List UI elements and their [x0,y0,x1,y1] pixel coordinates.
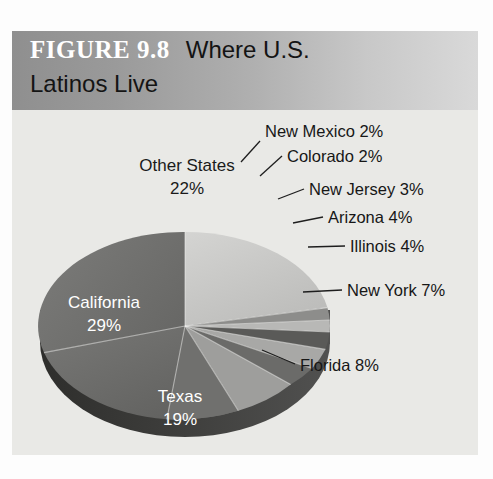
label-texas-name: Texas [158,387,202,406]
label-other-states-percent: 22% [170,179,204,198]
label-illinois: Illinois 4% [350,237,425,255]
leader-line-colorado [260,156,282,176]
leader-line-new-mexico [241,141,260,162]
leader-line-illinois [308,246,345,247]
label-arizona: Arizona 4% [328,208,413,226]
label-new-york: New York 7% [347,281,445,299]
label-colorado: Colorado 2% [287,147,383,165]
label-california-name: California [68,293,140,312]
label-florida: Florida 8% [300,356,379,374]
figure-root: FIGURE 9.8Where U.S. Latinos Live [0,0,493,479]
figure-title-line-1: Where U.S. [186,36,310,63]
figure-number-label: FIGURE 9.8 [30,36,170,63]
figure-header-line-2: Latinos Live [30,70,158,98]
label-other-states-name: Other States [139,156,234,175]
figure-title-line-2: Latinos Live [30,70,158,97]
label-new-mexico: New Mexico 2% [265,122,384,140]
label-texas-percent: 19% [163,410,197,429]
pie-chart-area: Other States 22% California 29% Texas 19… [12,110,478,455]
label-new-jersey: New Jersey 3% [309,180,424,198]
pie-chart-svg: Other States 22% California 29% Texas 19… [12,110,478,455]
figure-header-line-1: FIGURE 9.8Where U.S. [30,36,310,64]
leader-line-arizona [293,217,323,223]
figure-header-bar: FIGURE 9.8Where U.S. Latinos Live [12,31,478,110]
label-california-percent: 29% [87,316,121,335]
leader-line-new-jersey [278,189,304,199]
figure-panel: FIGURE 9.8Where U.S. Latinos Live [12,31,478,455]
